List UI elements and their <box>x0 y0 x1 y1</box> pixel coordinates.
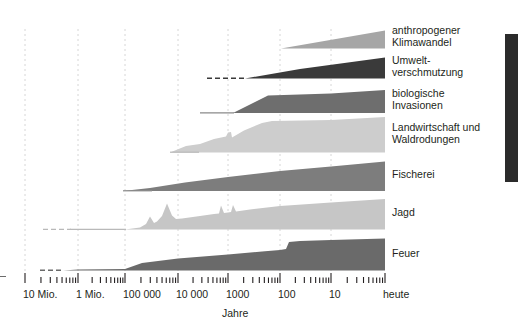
band-klimawandel <box>281 31 385 49</box>
series-label-fischerei: Fischerei <box>392 168 435 180</box>
band-fischerei <box>123 162 385 192</box>
axis-tick-label: 100 <box>278 288 296 300</box>
figure-root: anthropogener Klimawandel Umwelt- versch… <box>0 0 519 331</box>
axis-tick-label: 100 000 <box>123 288 161 300</box>
axis-tick-label: 1000 <box>226 288 249 300</box>
band-landwirtschaft <box>170 117 385 153</box>
series-label-klimawandel: anthropogener Klimawandel <box>392 24 460 48</box>
axis-tick-label: 10 Mio. <box>23 288 57 300</box>
band-invasionen <box>233 90 385 113</box>
series-label-feuer: Feuer <box>392 247 419 259</box>
band-feuer <box>63 239 385 271</box>
chart-canvas <box>0 0 519 331</box>
axis-tick-marks <box>25 273 385 283</box>
series-bands <box>40 31 385 271</box>
series-label-landwirtschaft: Landwirtschaft und Waldrodungen <box>392 121 480 145</box>
axis-tick-label: 1 Mio. <box>76 288 105 300</box>
axis-tick-label: heute <box>383 288 409 300</box>
series-label-umweltverschmutzung: Umwelt- verschmutzung <box>392 54 463 78</box>
page-edge-bar <box>505 34 518 182</box>
axis-title-jahre: Jahre <box>222 307 248 319</box>
axis-tick-label: 10 <box>329 288 341 300</box>
band-jagd <box>125 199 385 230</box>
series-label-jagd: Jagd <box>392 206 415 218</box>
series-label-invasionen: biologische Invasionen <box>392 87 445 111</box>
band-umweltverschmutzung <box>245 58 385 79</box>
axis-start-mark <box>0 276 6 277</box>
axis-tick-label: 10 000 <box>176 288 208 300</box>
